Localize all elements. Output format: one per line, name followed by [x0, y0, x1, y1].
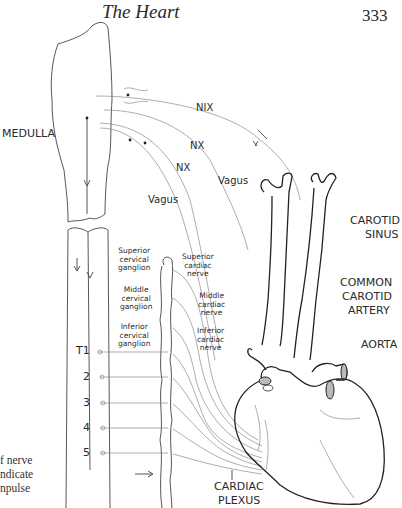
label-inferior-cardiac-nerve: Inferiorcardiacnerve	[197, 327, 224, 353]
label-common-carotid-1: COMMON	[340, 277, 392, 289]
label-inferior-cervical-ganglion: Inferiorcervicalganglion	[118, 323, 150, 349]
figure-caption-fragment: f nerve ndicate npulse	[0, 453, 33, 495]
label-superior-cardiac-nerve: Superiorcardiacnerve	[182, 253, 214, 279]
label-superior-cervical-ganglion: Superiorcervicalganglion	[118, 247, 150, 273]
label-nix: NIX	[196, 102, 213, 113]
sympathetic-chain	[163, 257, 173, 508]
label-aorta: AORTA	[361, 339, 397, 351]
label-segment-3: 3	[83, 397, 90, 409]
label-segment-t1: T1	[76, 345, 90, 357]
label-vagus-1: Vagus	[218, 175, 248, 186]
label-segment-5: 5	[83, 447, 90, 459]
label-middle-cardiac-nerve: Middlecardiacnerve	[198, 292, 225, 318]
label-segment-2: 2	[83, 371, 90, 383]
label-common-carotid-2: CAROTID	[342, 291, 392, 303]
label-nx-2: NX	[176, 162, 190, 173]
label-middle-cervical-ganglion: Middlecervicalganglion	[120, 286, 152, 312]
left-carotid	[310, 174, 336, 361]
label-cardiac-plexus-2: PLEXUS	[218, 495, 260, 507]
label-nx-1: NX	[190, 140, 204, 151]
label-carotid-sinus-1: CAROTID	[350, 215, 400, 227]
label-medulla: MEDULLA	[2, 128, 55, 140]
medulla-outline	[51, 22, 112, 222]
label-common-carotid-3: ARTERY	[348, 305, 390, 317]
label-cardiac-plexus-1: CARDIAC	[214, 481, 264, 493]
label-vagus-2: Vagus	[148, 194, 178, 205]
label-carotid-sinus-2: SINUS	[365, 229, 399, 241]
label-segment-4: 4	[83, 422, 90, 434]
